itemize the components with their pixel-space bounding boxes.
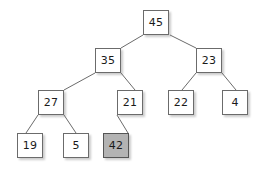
tree-node-35[interactable]: 35 xyxy=(95,48,121,73)
tree-node-19[interactable]: 19 xyxy=(17,133,43,158)
binary-tree-figure: 453523272122419542 xyxy=(0,0,257,170)
tree-edge-n23-n4 xyxy=(222,73,236,90)
tree-node-5[interactable]: 5 xyxy=(63,133,89,158)
tree-edge-n23-n22 xyxy=(182,73,196,90)
tree-edge-n27-n5 xyxy=(64,115,76,133)
tree-edge-n35-n21 xyxy=(121,73,135,90)
tree-node-42[interactable]: 42 xyxy=(103,133,129,158)
tree-edge-n45-n35 xyxy=(121,35,143,48)
tree-node-21[interactable]: 21 xyxy=(117,90,143,115)
tree-node-22[interactable]: 22 xyxy=(168,90,194,115)
tree-edge-n21-n42 xyxy=(117,115,128,133)
tree-node-27[interactable]: 27 xyxy=(38,90,64,115)
tree-node-23[interactable]: 23 xyxy=(196,48,222,73)
tree-edge-n27-n19 xyxy=(26,115,38,133)
tree-edge-n35-n27 xyxy=(64,73,95,90)
tree-node-45[interactable]: 45 xyxy=(143,10,169,35)
tree-node-4[interactable]: 4 xyxy=(222,90,248,115)
tree-edge-n45-n23 xyxy=(170,35,196,48)
